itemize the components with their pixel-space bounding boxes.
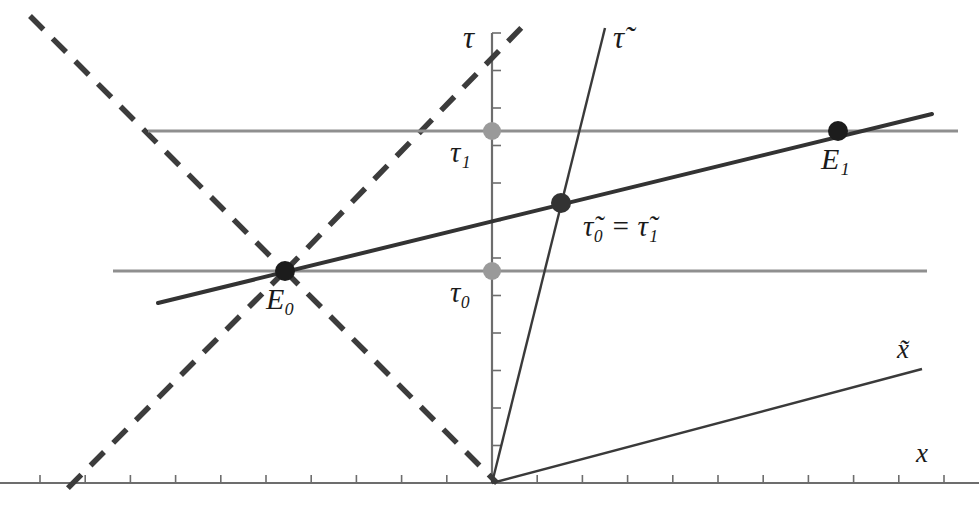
x-tilde-axis — [492, 369, 922, 483]
event-tau-tilde-coincidence — [551, 193, 571, 213]
spacetime-diagram-figure: τ τ̃ x x̃ E₀ E₁ τ₀ τ₁ τ̃₀ = τ̃₁ — [0, 0, 979, 508]
x-tilde-axis-label: x̃ — [897, 336, 909, 363]
lightcone-ray-upper-right — [285, 22, 527, 271]
tau-axis-label: τ — [463, 22, 474, 53]
tau-axis-ticks — [492, 33, 501, 483]
tau1-tick-label: τ₁ — [450, 138, 470, 167]
observer-worldline — [158, 114, 932, 303]
tau-axis — [492, 33, 501, 483]
tau-tilde-axis-label: τ̃ — [613, 22, 624, 53]
tick-dot-tau1 — [483, 122, 501, 140]
boosted-frame-axes — [492, 28, 922, 483]
tau-tilde-axis — [492, 28, 605, 483]
event-E0-label: E₀ — [266, 284, 295, 314]
event-dots — [275, 121, 848, 281]
lightcone-ray-lower-left — [66, 271, 285, 490]
event-E1 — [828, 121, 848, 141]
tick-dot-tau0 — [483, 262, 501, 280]
event-E1-label: E₁ — [821, 144, 850, 174]
event-E0 — [275, 261, 295, 281]
tau0-tick-label: τ₀ — [450, 278, 470, 307]
tau-tilde-equality-label: τ̃₀ = τ̃₁ — [583, 212, 658, 241]
lightcone-ray-upper-left — [30, 16, 285, 271]
x-axis-label: x — [916, 440, 928, 467]
lightcone-rays — [30, 16, 527, 490]
diagram-canvas — [0, 0, 979, 508]
